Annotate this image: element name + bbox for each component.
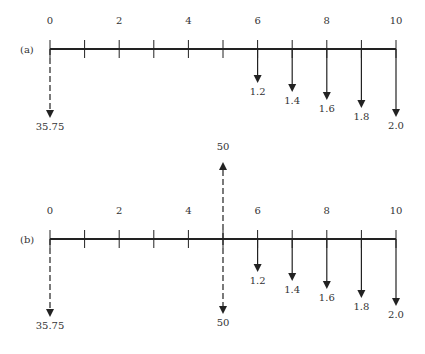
cash-flow-arrow-down: 1.6 <box>319 49 335 114</box>
tick-label: 2 <box>116 15 122 26</box>
tick-label: 6 <box>254 205 260 216</box>
cash-flow-value: 1.2 <box>250 86 266 97</box>
cash-flow-arrow-down: 35.75 <box>36 239 65 331</box>
cash-flow-arrow-down: 35.75 <box>36 49 65 132</box>
cash-flow-value: 1.2 <box>250 275 266 286</box>
arrowhead-icon <box>46 309 54 317</box>
tick-label: 4 <box>185 15 191 26</box>
cash-flow-arrow-down: 1.8 <box>353 49 369 122</box>
arrowhead-icon <box>288 273 296 281</box>
tick-label: 10 <box>390 15 403 26</box>
tick-label: 10 <box>390 205 403 216</box>
arrowhead-icon <box>219 306 227 314</box>
arrowhead-icon <box>46 110 54 118</box>
cash-flow-arrow-down: 1.2 <box>250 49 266 97</box>
cash-flow-value: 2.0 <box>388 309 404 320</box>
cash-flow-arrow-up: 50 <box>217 141 230 239</box>
arrowhead-icon <box>357 100 365 108</box>
cash-flow-value: 50 <box>217 141 230 152</box>
cash-flow-value: 1.6 <box>319 103 335 114</box>
cash-flow-value: 2.0 <box>388 120 404 131</box>
cash-flow-arrow-down: 2.0 <box>388 239 404 320</box>
cash-flow-value: 1.6 <box>319 292 335 303</box>
cash-flow-value: 50 <box>217 317 230 328</box>
cash-flow-arrow-down: 1.2 <box>250 239 266 286</box>
tick-label: 4 <box>185 205 191 216</box>
arrowhead-icon <box>254 264 262 272</box>
cash-flow-arrow-down: 1.4 <box>284 239 300 295</box>
tick-label: 8 <box>324 15 330 26</box>
arrowhead-icon <box>254 75 262 83</box>
diagram-b: (b)024681035.7550501.21.41.61.82.0 <box>20 141 404 331</box>
arrowhead-icon <box>357 290 365 298</box>
cash-flow-arrow-down: 50 <box>217 239 230 328</box>
cash-flow-value: 1.8 <box>353 301 369 312</box>
arrowhead-icon <box>323 281 331 289</box>
cash-flow-value: 1.8 <box>353 111 369 122</box>
arrowhead-icon <box>392 109 400 117</box>
diagram-canvas: (a)024681035.751.21.41.61.82.0(b)0246810… <box>0 0 425 354</box>
tick-label: 2 <box>116 205 122 216</box>
cash-flow-arrow-down: 1.8 <box>353 239 369 312</box>
arrowhead-icon <box>323 92 331 100</box>
tick-label: 0 <box>47 15 53 26</box>
tick-label: 8 <box>324 205 330 216</box>
cash-flow-value: 35.75 <box>36 121 65 132</box>
diagram-label: (a) <box>20 44 34 55</box>
diagram-label: (b) <box>20 234 34 245</box>
cash-flow-arrow-down: 2.0 <box>388 49 404 131</box>
tick-label: 0 <box>47 205 53 216</box>
diagram-a: (a)024681035.751.21.41.61.82.0 <box>20 15 404 132</box>
tick-label: 6 <box>254 15 260 26</box>
arrowhead-icon <box>219 162 227 170</box>
cash-flow-arrow-down: 1.6 <box>319 239 335 303</box>
arrowhead-icon <box>288 84 296 92</box>
cash-flow-arrow-down: 1.4 <box>284 49 300 106</box>
cash-flow-value: 1.4 <box>284 284 300 295</box>
arrowhead-icon <box>392 298 400 306</box>
cash-flow-value: 35.75 <box>36 320 65 331</box>
cash-flow-diagrams: (a)024681035.751.21.41.61.82.0(b)0246810… <box>0 0 425 354</box>
cash-flow-value: 1.4 <box>284 95 300 106</box>
